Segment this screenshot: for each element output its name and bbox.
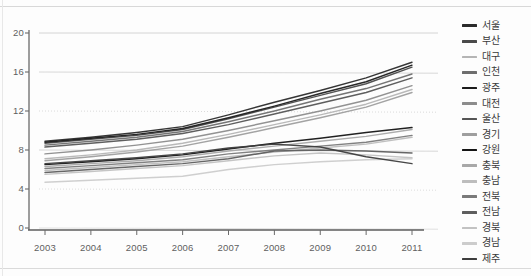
- legend-item[interactable]: 광주: [462, 80, 528, 96]
- line-chart: 048121620 200320042005200620072008200920…: [0, 0, 440, 276]
- legend-label: 대전: [482, 99, 500, 109]
- legend-color-swatch: [462, 71, 477, 74]
- y-tick-label: 4: [4, 183, 24, 194]
- y-tick-label: 16: [4, 66, 24, 77]
- legend-color-swatch: [462, 87, 477, 90]
- legend-label: 경북: [482, 223, 500, 233]
- legend-item[interactable]: 제주: [462, 251, 528, 267]
- x-tick-label: 2005: [117, 242, 157, 253]
- legend-label: 제주: [482, 254, 500, 264]
- x-tick-label: 2010: [346, 242, 386, 253]
- x-tick-label: 2006: [163, 242, 203, 253]
- legend-color-swatch: [462, 102, 477, 105]
- legend-item[interactable]: 서울: [462, 18, 528, 34]
- legend-item[interactable]: 울산: [462, 111, 528, 127]
- legend-item[interactable]: 충남: [462, 173, 528, 189]
- legend-item[interactable]: 전남: [462, 205, 528, 221]
- legend-color-swatch: [462, 149, 477, 152]
- x-tick-label: 2004: [71, 242, 111, 253]
- legend-label: 전남: [482, 207, 500, 217]
- x-tick-label: 2009: [300, 242, 340, 253]
- y-tick-label: 8: [4, 144, 24, 155]
- legend-label: 대구: [482, 52, 500, 62]
- y-tick-label: 20: [4, 27, 24, 38]
- legend-label: 경기: [482, 130, 500, 140]
- series-line: [45, 67, 412, 143]
- legend-color-swatch: [462, 211, 477, 214]
- x-tick-label: 2007: [209, 242, 249, 253]
- legend-label: 강원: [482, 145, 500, 155]
- legend-label: 울산: [482, 114, 500, 124]
- legend-label: 인천: [482, 67, 500, 77]
- gridline: [39, 228, 438, 229]
- legend-item[interactable]: 경남: [462, 236, 528, 252]
- plot-canvas: [0, 0, 440, 276]
- legend-label: 서울: [482, 21, 500, 31]
- legend-item[interactable]: 충북: [462, 158, 528, 174]
- chart-legend: 서울부산대구인천광주대전울산경기강원충북충남전북전남경북경남제주: [462, 18, 528, 267]
- legend-color-swatch: [462, 258, 477, 261]
- legend-label: 부산: [482, 36, 500, 46]
- legend-color-swatch: [462, 133, 477, 136]
- legend-label: 충북: [482, 161, 500, 171]
- legend-color-swatch: [462, 195, 477, 198]
- legend-item[interactable]: 강원: [462, 142, 528, 158]
- legend-label: 전북: [482, 192, 500, 202]
- legend-color-swatch: [462, 56, 477, 59]
- legend-item[interactable]: 전북: [462, 189, 528, 205]
- legend-item[interactable]: 인천: [462, 65, 528, 81]
- legend-color-swatch: [462, 242, 477, 245]
- x-tick-label: 2003: [25, 242, 65, 253]
- legend-item[interactable]: 경기: [462, 127, 528, 143]
- legend-item[interactable]: 대구: [462, 49, 528, 65]
- legend-label: 충남: [482, 176, 500, 186]
- legend-color-swatch: [462, 164, 477, 167]
- legend-color-swatch: [462, 180, 477, 183]
- x-tick-label: 2011: [392, 242, 432, 253]
- chart-page: 048121620 200320042005200620072008200920…: [0, 0, 531, 276]
- legend-item[interactable]: 부산: [462, 34, 528, 50]
- legend-color-swatch: [462, 24, 477, 27]
- x-tick-label: 2008: [254, 242, 294, 253]
- legend-label: 경남: [482, 238, 500, 248]
- gridline: [39, 189, 438, 190]
- legend-item[interactable]: 경북: [462, 220, 528, 236]
- legend-label: 광주: [482, 83, 500, 93]
- y-tick-label: 0: [4, 222, 24, 233]
- y-tick-label: 12: [4, 105, 24, 116]
- legend-color-swatch: [462, 227, 477, 230]
- legend-color-swatch: [462, 40, 477, 43]
- legend-item[interactable]: 대전: [462, 96, 528, 112]
- legend-color-swatch: [462, 118, 477, 121]
